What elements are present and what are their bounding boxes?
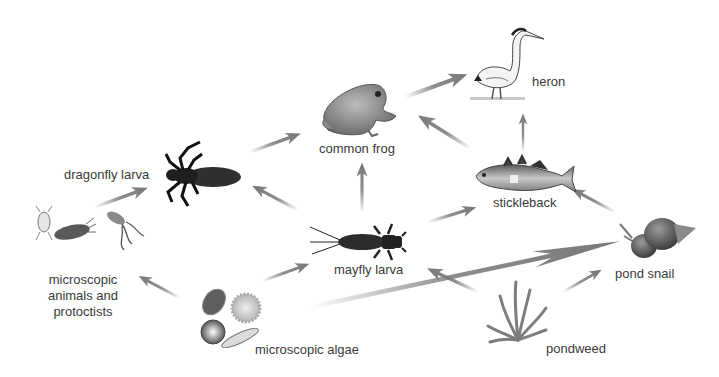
microscopic-animals-label: microscopic animals and protoctists: [40, 272, 126, 320]
food-web-diagram: [0, 0, 719, 377]
microscopic-animals-label-line2: animals and: [40, 288, 126, 304]
pondweed-icon: [488, 282, 546, 342]
dragonfly-larva-label: dragonfly larva: [64, 167, 149, 183]
stickleback-label: stickleback: [493, 195, 557, 211]
arrow-mayfly-to-dragonfly: [250, 181, 301, 216]
pondweed-label: pondweed: [546, 341, 606, 357]
microscopic-animals-label-line3: protoctists: [40, 304, 126, 320]
microscopic-algae-icon: [198, 285, 260, 351]
arrow-dragonfly-to-frog: [248, 128, 303, 158]
common-frog-label: common frog: [319, 141, 395, 157]
microscopic-animals-icon: [36, 206, 144, 250]
arrow-mayfly-to-frog: [356, 163, 367, 213]
microscopic-animals-label-line1: microscopic: [40, 272, 126, 288]
arrow-algae-to-microanimals: [136, 271, 182, 302]
arrow-frog-to-heron: [402, 67, 469, 103]
arrow-algae-to-mayfly: [260, 258, 311, 286]
arrow-stickleback-to-frog: [414, 110, 473, 154]
arrow-stickleback-to-heron: [519, 113, 528, 153]
mayfly-larva-label: mayfly larva: [334, 262, 403, 278]
arrow-snail-to-stickleback: [569, 184, 617, 217]
arrow-mayfly-to-stickleback: [426, 202, 477, 227]
mayfly-larva-icon: [310, 224, 406, 260]
dragonfly-larva-icon: [166, 142, 241, 206]
pond-snail-icon: [620, 218, 696, 258]
common-frog-icon: [323, 84, 396, 136]
pond-snail-label: pond snail: [615, 266, 674, 282]
arrow-microanimals-to-dragonfly: [93, 182, 150, 213]
arrow-pondweed-to-snail: [561, 265, 605, 296]
microscopic-algae-label: microscopic algae: [255, 342, 359, 358]
heron-label: heron: [532, 74, 565, 90]
stickleback-icon: [476, 156, 576, 192]
